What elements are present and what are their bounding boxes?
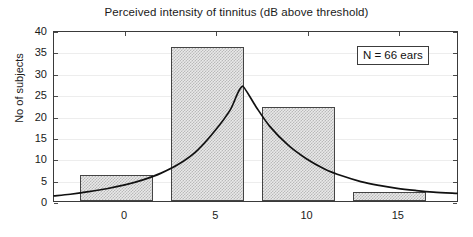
y-tick-mark (453, 203, 457, 204)
chart-figure: Perceived intensity of tinnitus (dB abov… (0, 0, 473, 237)
x-tick-label: 10 (292, 209, 322, 221)
y-tick-mark (54, 203, 58, 204)
sample-size-annotation: N = 66 ears (357, 46, 429, 66)
x-tick-label: 0 (109, 209, 139, 221)
x-tick-label: 5 (200, 209, 230, 221)
x-tick-label: 15 (383, 209, 413, 221)
